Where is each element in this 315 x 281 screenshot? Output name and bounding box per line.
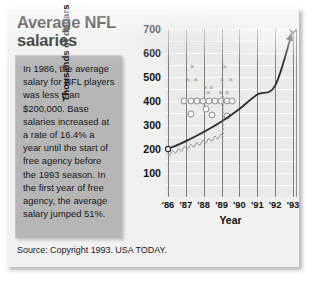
infographic-card: Average NFL salaries In 1986, the averag… xyxy=(6,8,299,267)
x-axis-ticks: '86'87'88'89'90'91'92'93 xyxy=(165,199,296,213)
y-axis-tick-label: 100 xyxy=(129,167,161,179)
source-credit: Source: Copyright 1993. USA TODAY. xyxy=(17,245,167,255)
curve-end-marker xyxy=(290,29,296,32)
y-axis-ticks: 700600500400300200100 xyxy=(127,23,161,239)
y-axis-tick-label: 600 xyxy=(129,47,161,59)
x-axis-tick-label: '87 xyxy=(180,199,193,210)
y-axis-title: Thousands of dollars xyxy=(60,0,74,116)
trend-curve-svg xyxy=(165,29,296,197)
nfl-salaries-infographic: Average NFL salaries In 1986, the averag… xyxy=(0,0,315,281)
x-axis-title: Year xyxy=(165,215,296,226)
salary-line-chart: Thousands of dollars 7006005004003002001… xyxy=(125,23,301,239)
y-axis-tick-label: 400 xyxy=(129,95,161,107)
curve-arrow-head xyxy=(286,33,293,42)
y-axis-tick-label: 500 xyxy=(129,71,161,83)
y-axis-tick-label: 700 xyxy=(129,23,161,35)
x-axis-tick-label: '86 xyxy=(162,199,175,210)
plot-area: ××××××××××× xyxy=(165,29,297,197)
y-axis-tick-label: 200 xyxy=(129,143,161,155)
x-axis-tick-label: '89 xyxy=(215,199,228,210)
x-axis-tick-label: '91 xyxy=(251,199,264,210)
x-axis-tick-label: '88 xyxy=(197,199,210,210)
y-axis-tick-label: 300 xyxy=(129,119,161,131)
x-axis-tick-label: '92 xyxy=(269,199,282,210)
x-axis-tick-label: '90 xyxy=(233,199,246,210)
x-axis-tick-label: '93 xyxy=(287,199,300,210)
average-salary-curve xyxy=(168,29,293,149)
curve-start-marker xyxy=(165,146,170,151)
